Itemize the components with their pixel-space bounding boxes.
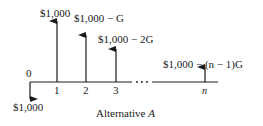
ellipsis-dots — [136, 81, 148, 83]
amount-label-t1: $1,000 — [40, 8, 70, 19]
caption-variable: A — [148, 107, 155, 119]
outflow-label-t0: $1,000 — [13, 102, 43, 113]
diagram-caption: Alternative A — [96, 108, 155, 119]
amount-label-t2: $1,000 − G — [74, 13, 124, 24]
tick-label-2: 2 — [83, 85, 89, 96]
amount-label-t3: $1,000 − 2G — [98, 34, 153, 45]
caption-text: Alternative — [96, 107, 148, 119]
tick-label-1: 1 — [54, 85, 60, 96]
origin-label: 0 — [26, 68, 32, 79]
tick-label-n: n — [202, 86, 207, 96]
amount-label-tn: $1,000 − (n − 1)G — [163, 59, 243, 70]
tick-label-3: 3 — [113, 85, 119, 96]
